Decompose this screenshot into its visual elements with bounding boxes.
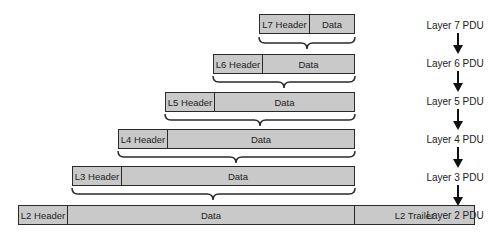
brace-l7-to-l6 — [257, 36, 357, 52]
l2-data: Data — [67, 206, 354, 224]
arrow-down-icon — [453, 147, 463, 169]
l7-data: Data — [309, 15, 354, 33]
l2-header: L2 Header — [19, 206, 67, 224]
l6-header: L6 Header — [214, 55, 262, 73]
label-layer6-pdu: Layer 6 PDU — [420, 58, 490, 69]
l4-header: L4 Header — [119, 130, 167, 148]
brace-l4-to-l3 — [116, 150, 357, 166]
layer2-pdu: L2 Header Data L2 Trailer — [18, 205, 475, 225]
layer7-pdu: L7 Header Data — [259, 14, 355, 34]
arrow-down-icon — [453, 33, 463, 55]
arrow-down-icon — [453, 185, 463, 207]
layer6-pdu: L6 Header Data — [213, 54, 355, 74]
label-layer2-pdu: Layer 2 PDU — [420, 210, 490, 221]
l3-data: Data — [121, 167, 354, 185]
brace-l3-to-l2 — [70, 187, 357, 204]
layer4-pdu: L4 Header Data — [118, 129, 355, 149]
l7-header: L7 Header — [260, 15, 309, 33]
label-layer4-pdu: Layer 4 PDU — [420, 134, 490, 145]
l6-data: Data — [262, 55, 354, 73]
brace-l5-to-l4 — [163, 113, 357, 129]
l4-data: Data — [167, 130, 354, 148]
l5-data: Data — [214, 93, 354, 111]
label-layer7-pdu: Layer 7 PDU — [420, 20, 490, 31]
label-layer5-pdu: Layer 5 PDU — [420, 96, 490, 107]
label-layer3-pdu: Layer 3 PDU — [420, 172, 490, 183]
layer5-pdu: L5 Header Data — [165, 92, 355, 112]
arrow-down-icon — [453, 109, 463, 131]
layer3-pdu: L3 Header Data — [72, 166, 355, 186]
arrow-down-icon — [453, 71, 463, 93]
brace-l6-to-l5 — [211, 75, 357, 91]
l5-header: L5 Header — [166, 93, 214, 111]
l3-header: L3 Header — [73, 167, 121, 185]
